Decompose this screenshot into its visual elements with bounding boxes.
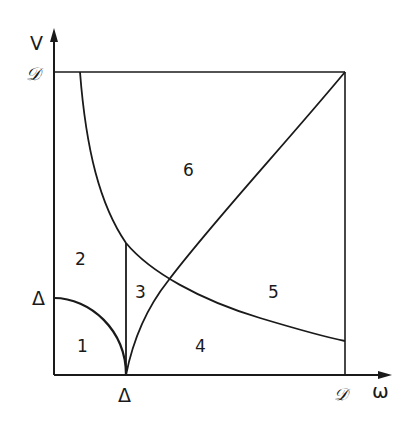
phase-diagram: V ω 𝒟 Δ Δ 𝒟 1 2 3 4 5 6 [0,0,412,428]
y-axis-label: V [30,32,43,54]
decreasing-curve [80,72,345,341]
y-tick-top: 𝒟 [26,63,44,84]
region-2-label: 2 [75,249,86,269]
rising-curve [126,72,345,375]
region-6-label: 6 [183,160,194,180]
x-tick-right: 𝒟 [334,384,351,404]
x-axis-arrow-icon [378,371,392,379]
region-4-label: 4 [195,336,206,356]
quarter-arc [54,298,126,375]
y-axis-arrow-icon [50,28,58,42]
region-5-label: 5 [268,282,279,302]
region-3-label: 3 [135,282,146,302]
y-tick-delta: Δ [32,287,45,309]
region-1-label: 1 [77,336,88,356]
x-tick-delta: Δ [118,384,131,406]
x-axis-label: ω [372,379,389,403]
